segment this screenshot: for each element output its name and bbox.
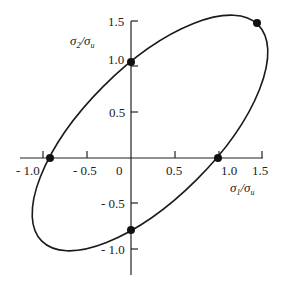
y-tick-label: - 0.5 (101, 196, 125, 211)
point-x-intercept-right (214, 154, 222, 162)
x-ticks (43, 151, 262, 158)
y-tick-label: - 1.0 (101, 242, 125, 257)
x-axis-label: σ1/σu (230, 180, 254, 197)
x-tick-label: - 0.5 (73, 163, 97, 178)
x-tick-label: - 1.0 (16, 163, 40, 178)
x-tick-label: 1.0 (221, 163, 237, 178)
y-tick-label: 1.0 (108, 52, 124, 67)
failure-ellipse-diagram: - 1.0 - 0.5 0 0.5 1.0 1.5 1.5 1.0 0.5 - … (0, 0, 284, 288)
x-tick-label: 1.5 (252, 163, 268, 178)
point-y-intercept-bottom (127, 226, 135, 234)
data-points (46, 19, 261, 234)
x-tick-label: 0 (116, 163, 123, 178)
point-y-intercept-top (127, 58, 135, 66)
y-tick-label: 0.5 (109, 105, 125, 120)
point-x-intercept-left (46, 154, 54, 162)
y-tick-label: 1.5 (108, 14, 124, 29)
y-ticks (131, 21, 138, 249)
x-tick-label: 0.5 (166, 163, 182, 178)
failure-ellipse-curve (0, 0, 284, 288)
point-biaxial-equal (253, 19, 261, 27)
y-axis-label: σ2/σu (70, 33, 94, 50)
